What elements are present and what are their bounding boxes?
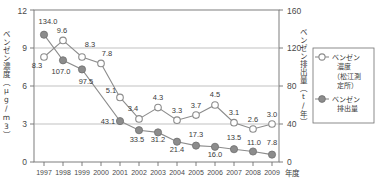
dlabel-conc-2002: 3.4 bbox=[128, 104, 138, 113]
left-tick-label-12: 12 bbox=[18, 6, 28, 16]
dlabel-conc-1999: 8.3 bbox=[85, 40, 95, 49]
dlabel-emis-2007: 13.5 bbox=[227, 133, 242, 142]
point-conc-2003 bbox=[155, 104, 162, 111]
point-emis-2009 bbox=[268, 151, 275, 158]
chart-svg: 0 3 6 9 12 0 40 80 120 160 bbox=[0, 0, 376, 184]
dlabel-conc-2004: 3.3 bbox=[172, 106, 182, 115]
point-conc-1998 bbox=[60, 37, 67, 44]
dlabel-emis-2006: 16.0 bbox=[208, 150, 223, 159]
right-tick-label-0: 0 bbox=[287, 157, 292, 167]
legend-label-concentration-l2: 濃度 bbox=[337, 62, 351, 71]
point-emis-2005 bbox=[192, 142, 199, 149]
point-conc-2008 bbox=[250, 126, 257, 133]
legend-label-concentration-l4: 定所） bbox=[337, 81, 358, 90]
right-tick-label-40: 40 bbox=[287, 119, 297, 129]
xlabel-2005: 2005 bbox=[188, 169, 204, 176]
dlabel-conc-1998: 9.6 bbox=[57, 26, 67, 35]
point-conc-2007 bbox=[231, 119, 238, 126]
dlabel-emis-2008: 11.0 bbox=[247, 138, 261, 147]
point-emis-2007 bbox=[230, 146, 237, 153]
dlabel-conc-2006: 4.5 bbox=[210, 90, 220, 99]
dlabel-emis-2004: 21.4 bbox=[170, 145, 185, 154]
left-axis-title: ベンゼン濃度（μg/m3） bbox=[2, 30, 10, 150]
dlabel-conc-2000: 7.8 bbox=[102, 49, 112, 58]
xlabel-1997: 1997 bbox=[36, 169, 52, 176]
right-tick-label-160: 160 bbox=[287, 6, 301, 16]
dlabel-conc-2005: 3.7 bbox=[191, 101, 201, 110]
legend-label-emission-l1: ベンゼン bbox=[332, 95, 360, 104]
dlabel-conc-2007: 3.1 bbox=[229, 108, 239, 117]
left-tick-label-9: 9 bbox=[22, 43, 27, 53]
legend-label-concentration-l1: ベンゼン bbox=[332, 53, 360, 62]
point-conc-2006 bbox=[212, 102, 219, 109]
xlabel-1998: 1998 bbox=[55, 169, 71, 176]
x-axis-labels: 1997 1998 1999 2000 2001 2002 2003 2004 … bbox=[36, 168, 300, 178]
legend-label-emission-l2: 排出量 bbox=[337, 104, 358, 113]
legend-label-concentration-l3: （松江測 bbox=[333, 72, 361, 81]
x-axis-title: 年度 bbox=[285, 168, 300, 178]
point-emis-2008 bbox=[249, 148, 256, 155]
point-conc-1999 bbox=[79, 54, 86, 61]
dlabel-emis-2001: 43.1 bbox=[101, 117, 116, 126]
left-tick-label-3: 3 bbox=[22, 119, 27, 129]
dlabel-emis-1999: 97.5 bbox=[79, 77, 94, 86]
left-tick-label-0: 0 bbox=[22, 157, 27, 167]
xlabel-2009: 2009 bbox=[264, 169, 280, 176]
dlabel-emis-1997: 134.0 bbox=[39, 17, 58, 26]
xlabel-2004: 2004 bbox=[169, 169, 185, 176]
point-emis-1997 bbox=[40, 31, 47, 38]
xlabel-2001: 2001 bbox=[112, 169, 128, 176]
filled-circle-icon bbox=[319, 96, 326, 103]
xlabel-2002: 2002 bbox=[131, 169, 147, 176]
point-conc-2000 bbox=[98, 60, 105, 67]
dlabel-emis-2005: 17.3 bbox=[189, 130, 204, 139]
point-conc-1997 bbox=[41, 54, 48, 61]
point-conc-2002 bbox=[136, 116, 143, 123]
dlabel-conc-2009: 3.0 bbox=[267, 110, 277, 119]
point-emis-2002 bbox=[135, 127, 142, 134]
xlabel-1999: 1999 bbox=[74, 169, 90, 176]
dlabel-emis-1998: 107.0 bbox=[52, 67, 71, 76]
point-emis-2001 bbox=[116, 118, 123, 125]
point-emis-1998 bbox=[59, 57, 66, 64]
xlabel-2003: 2003 bbox=[150, 169, 166, 176]
benzene-chart: ベンゼン濃度（μg/m3） ベンゼン排出量（t/年） 0 3 6 9 12 bbox=[0, 0, 376, 184]
point-conc-2005 bbox=[193, 112, 200, 119]
dlabel-conc-2008: 2.6 bbox=[248, 115, 258, 124]
open-circle-icon bbox=[319, 54, 325, 60]
dlabel-conc-2001: 5.1 bbox=[106, 86, 116, 95]
dlabel-emis-2009: 7.8 bbox=[267, 138, 277, 147]
dlabel-conc-2003: 4.3 bbox=[153, 93, 163, 102]
point-emis-1999 bbox=[78, 66, 85, 73]
x-axis-ticks bbox=[44, 162, 272, 166]
left-axis-title-text: ベンゼン濃度（μg/m3） bbox=[2, 30, 11, 139]
chart-legend: ベンゼン 濃度 （松江測 定所） ベンゼン 排出量 bbox=[313, 48, 374, 123]
point-conc-2001 bbox=[117, 94, 124, 101]
xlabel-2008: 2008 bbox=[245, 169, 261, 176]
dlabel-conc-1997: 8.3 bbox=[32, 61, 42, 70]
right-axis-title: ベンゼン排出量（t/年） bbox=[299, 28, 307, 153]
dlabel-emis-2002: 33.5 bbox=[130, 135, 145, 144]
xlabel-2007: 2007 bbox=[226, 169, 242, 176]
right-axis-title-text: ベンゼン排出量（t/年） bbox=[299, 28, 308, 126]
right-tick-label-80: 80 bbox=[287, 81, 297, 91]
xlabel-2006: 2006 bbox=[207, 169, 223, 176]
xlabel-2000: 2000 bbox=[93, 169, 109, 176]
dlabel-emis-2003: 31.2 bbox=[151, 135, 166, 144]
point-conc-2009 bbox=[269, 121, 276, 128]
left-axis: 0 3 6 9 12 bbox=[18, 6, 34, 167]
left-tick-label-6: 6 bbox=[22, 81, 27, 91]
point-conc-2004 bbox=[174, 117, 181, 124]
